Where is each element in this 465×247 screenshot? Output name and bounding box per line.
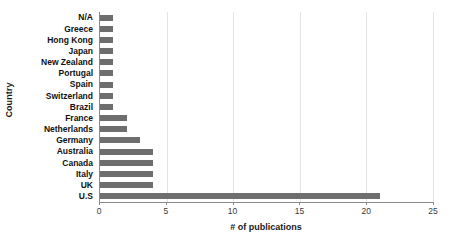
bar — [100, 48, 113, 54]
bar — [100, 15, 113, 21]
y-axis-tick-label: Portugal — [16, 68, 96, 79]
bar-row — [100, 57, 433, 68]
bar — [100, 137, 140, 143]
bar — [100, 149, 153, 155]
x-axis-title: # of publications — [99, 222, 433, 232]
y-axis-tick-label: Germany — [16, 135, 96, 146]
y-axis-tick-label: Australia — [16, 146, 96, 157]
bar — [100, 82, 113, 88]
gridline — [433, 12, 434, 202]
x-axis-tick-label: 10 — [228, 206, 237, 216]
x-axis-tick-label: 15 — [295, 206, 304, 216]
y-axis-tick-label: New Zealand — [16, 57, 96, 68]
x-axis-tick-label: 5 — [163, 206, 168, 216]
y-axis-tick-label: France — [16, 113, 96, 124]
y-axis-tick-label: Brazil — [16, 101, 96, 112]
x-axis-tick-label: 25 — [428, 206, 437, 216]
y-axis-tick-label: Italy — [16, 168, 96, 179]
bar-row — [100, 79, 433, 90]
y-axis-tick-label: N/A — [16, 12, 96, 23]
y-axis-tick-label: Switzerland — [16, 90, 96, 101]
bar-row — [100, 23, 433, 34]
y-axis-tick-label: UK — [16, 180, 96, 191]
bar — [100, 70, 113, 76]
bar-row — [100, 168, 433, 179]
bar-row — [100, 12, 433, 23]
bar — [100, 26, 113, 32]
x-axis-tick-label: 0 — [97, 206, 102, 216]
y-axis-tick-label: Japan — [16, 46, 96, 57]
bar — [100, 171, 153, 177]
bar-row — [100, 34, 433, 45]
bar-row — [100, 90, 433, 101]
bar-row — [100, 180, 433, 191]
x-axis-tick-mark — [366, 202, 367, 205]
bar-row — [100, 191, 433, 202]
y-axis-title: Country — [2, 0, 16, 200]
x-axis-tick-mark — [233, 202, 234, 205]
bar — [100, 104, 113, 110]
bar-row — [100, 146, 433, 157]
y-axis-tick-label: Greece — [16, 23, 96, 34]
bar-row — [100, 101, 433, 112]
bar — [100, 93, 113, 99]
x-axis-tick-labels: 0510152025 — [99, 202, 433, 218]
y-axis-title-text: Country — [4, 82, 14, 117]
x-axis-tick-mark — [166, 202, 167, 205]
x-axis-tick-label: 20 — [361, 206, 370, 216]
bar — [100, 182, 153, 188]
bar — [100, 115, 127, 121]
y-axis-tick-label: U.S — [16, 191, 96, 202]
bar-series — [100, 12, 433, 202]
bar — [100, 37, 113, 43]
x-axis-tick-mark — [99, 202, 100, 205]
bar-row — [100, 124, 433, 135]
bar-row — [100, 46, 433, 57]
plot-area — [99, 12, 433, 202]
bar-row — [100, 157, 433, 168]
bar-row — [100, 113, 433, 124]
x-axis-tick-mark — [433, 202, 434, 205]
bar — [100, 126, 127, 132]
y-axis-tick-label: Canada — [16, 157, 96, 168]
bar — [100, 160, 153, 166]
y-axis-tick-label: Spain — [16, 79, 96, 90]
bar-row — [100, 135, 433, 146]
bar-row — [100, 68, 433, 79]
bar — [100, 59, 113, 65]
bar-chart: Country N/AGreeceHong KongJapanNew Zeala… — [0, 0, 465, 247]
x-axis-tick-mark — [299, 202, 300, 205]
y-axis-tick-label: Netherlands — [16, 124, 96, 135]
y-axis-tick-labels: N/AGreeceHong KongJapanNew ZealandPortug… — [16, 12, 96, 202]
y-axis-tick-label: Hong Kong — [16, 34, 96, 45]
bar — [100, 193, 380, 199]
